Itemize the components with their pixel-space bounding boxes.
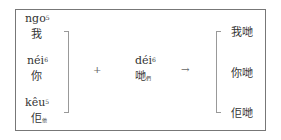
right-brace <box>216 31 221 113</box>
suffix-character: 哋們 <box>135 71 151 84</box>
plus-operator: + <box>93 64 101 75</box>
pronoun-1-character: 我 <box>31 29 42 41</box>
pronoun-3-romanization: kêu5 <box>25 97 49 109</box>
pronoun-2-character: 你 <box>31 71 42 83</box>
pronoun-1-romanization: ngo5 <box>25 13 50 25</box>
pronoun-3-character: 佢他 <box>31 113 47 126</box>
suffix-romanization: déi6 <box>135 55 156 67</box>
result-3: 佢哋 <box>231 108 253 120</box>
left-brace <box>64 31 69 113</box>
result-2: 你哋 <box>231 68 253 80</box>
arrow-operator: → <box>181 64 189 75</box>
result-1: 我哋 <box>231 27 253 39</box>
pronoun-2-romanization: néi6 <box>27 55 48 67</box>
